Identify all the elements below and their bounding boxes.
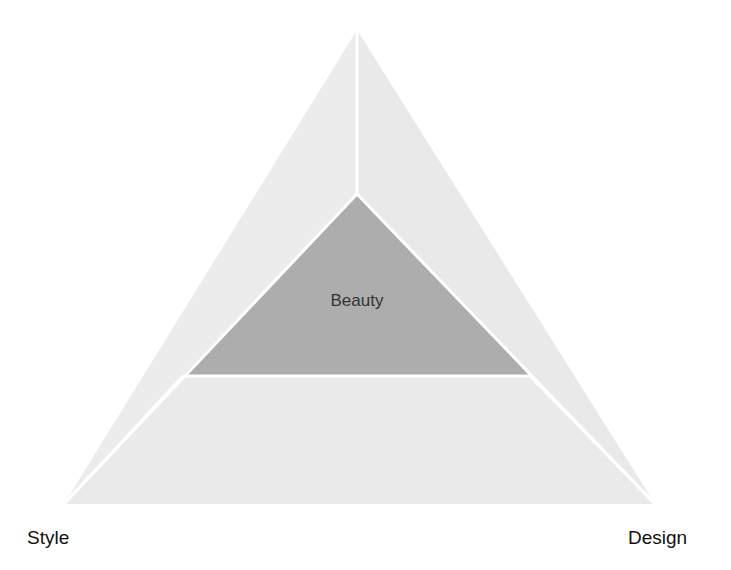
pyramid-diagram: Beauty [0, 0, 731, 570]
corner-label-style: Style [27, 527, 69, 549]
corner-label-design: Design [628, 527, 687, 549]
center-label: Beauty [331, 291, 384, 310]
